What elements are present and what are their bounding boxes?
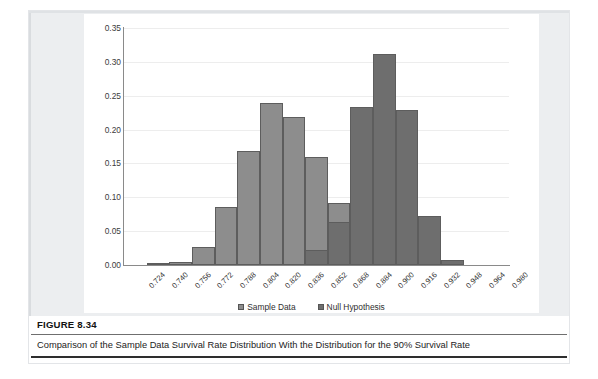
bar-sample-data	[237, 151, 260, 265]
legend-swatch-icon	[238, 304, 244, 310]
bar-null-hypothesis	[396, 110, 419, 265]
figure-number: FIGURE 8.34	[37, 319, 97, 330]
bar-slot	[283, 28, 306, 265]
y-axis-tick-label: 0.05	[105, 227, 121, 235]
y-axis-tick-label: 0.20	[105, 125, 121, 133]
bar-slot	[124, 28, 147, 265]
legend-swatch-icon	[318, 304, 324, 310]
chart-panel: 0.000.050.100.150.200.250.300.35 0.7240.…	[84, 14, 539, 313]
x-axis-tick-label: 0.884	[374, 270, 394, 290]
x-axis-tick-label: 0.788	[238, 270, 258, 290]
x-axis-line	[123, 265, 510, 266]
figure-caption: Comparison of the Sample Data Survival R…	[37, 340, 561, 352]
y-axis-tick-label: 0.35	[105, 24, 121, 32]
y-axis-tick-label: 0.25	[105, 92, 121, 100]
bar-null-hypothesis	[350, 107, 373, 265]
chart-legend: Sample DataNull Hypothesis	[84, 300, 539, 314]
y-axis-labels: 0.000.050.100.150.200.250.300.35	[84, 14, 124, 313]
bar-null-hypothesis	[441, 260, 464, 265]
bar-sample-data	[260, 103, 283, 266]
bar-sample-data	[192, 247, 215, 265]
y-axis-tick-label: 0.00	[105, 261, 121, 269]
bar-sample-data	[283, 117, 306, 265]
bar-slot	[169, 28, 192, 265]
bar-null-hypothesis	[373, 54, 396, 265]
x-axis-tick-label: 0.932	[442, 270, 462, 290]
bar-slot	[441, 28, 464, 265]
plot-area	[124, 28, 509, 265]
x-axis-tick-label: 0.980	[510, 270, 530, 290]
x-axis-tick-label: 0.916	[419, 270, 439, 290]
bar-slot	[328, 28, 351, 265]
x-axis-tick-label: 0.724	[147, 270, 167, 290]
legend-label: Sample Data	[247, 302, 295, 312]
legend-item: Null Hypothesis	[318, 302, 385, 312]
caption-rule-bottom	[31, 356, 567, 358]
bar-sample-data	[215, 207, 238, 265]
bar-slot	[147, 28, 170, 265]
x-axis-tick-label: 0.820	[283, 270, 303, 290]
x-axis-tick-label: 0.964	[487, 270, 507, 290]
x-axis-tick-label: 0.900	[397, 270, 417, 290]
y-axis-tick-label: 0.15	[105, 159, 121, 167]
bar-slot	[192, 28, 215, 265]
x-axis-tick-label: 0.852	[329, 270, 349, 290]
x-axis-tick-label: 0.804	[261, 270, 281, 290]
x-axis-tick-label: 0.740	[170, 270, 190, 290]
frame-edge-top	[29, 11, 569, 13]
bar-slot	[464, 28, 487, 265]
bar-slot	[373, 28, 396, 265]
x-axis-tick-label: 0.772	[215, 270, 235, 290]
bar-sample-data	[169, 262, 192, 265]
y-axis-tick-label: 0.10	[105, 193, 121, 201]
bar-slot	[396, 28, 419, 265]
bar-slot	[418, 28, 441, 265]
caption-block: FIGURE 8.34 Comparison of the Sample Dat…	[29, 316, 569, 363]
bar-sample-data	[305, 157, 328, 265]
bar-sample-data	[147, 263, 170, 265]
bar-slot	[260, 28, 283, 265]
bar-slot	[305, 28, 328, 265]
bar-null-hypothesis	[418, 216, 441, 265]
bar-null-hypothesis	[305, 250, 328, 265]
bar-slot	[486, 28, 509, 265]
y-axis-tick-label: 0.30	[105, 58, 121, 66]
legend-label: Null Hypothesis	[327, 302, 385, 312]
x-axis-tick-label: 0.756	[193, 270, 213, 290]
frame-edge-left	[29, 11, 31, 363]
bar-null-hypothesis	[328, 222, 351, 265]
bar-slot	[350, 28, 373, 265]
figure-screenshot: 0.000.050.100.150.200.250.300.35 0.7240.…	[0, 0, 598, 379]
legend-item: Sample Data	[238, 302, 295, 312]
x-axis-tick-label: 0.836	[306, 270, 326, 290]
bar-series-group	[124, 28, 509, 265]
bar-slot	[215, 28, 238, 265]
caption-rule-top	[31, 334, 567, 335]
bar-slot	[237, 28, 260, 265]
x-axis-tick-label: 0.948	[465, 270, 485, 290]
x-axis-tick-label: 0.868	[351, 270, 371, 290]
